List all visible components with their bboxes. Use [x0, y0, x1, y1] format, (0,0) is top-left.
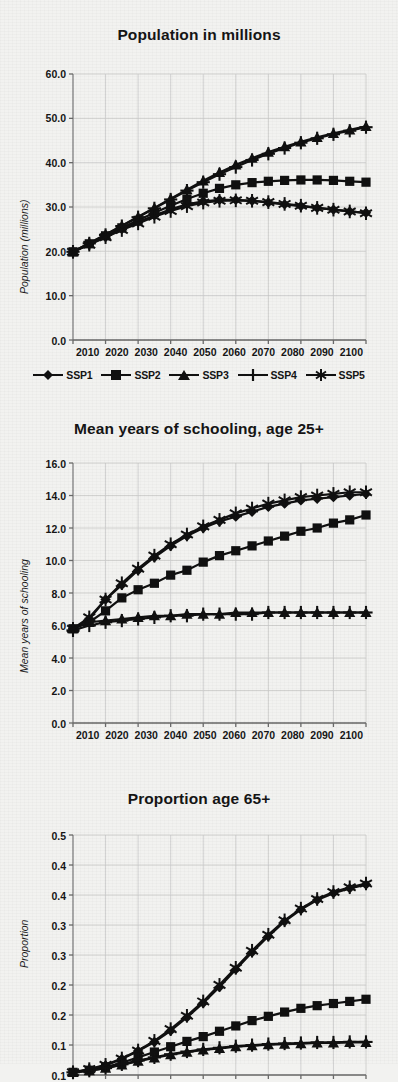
y-tick-proportion: 0.4 — [24, 890, 66, 902]
x-tick: 2040 — [161, 729, 190, 741]
y-tick-proportion: 0.3 — [24, 950, 66, 962]
x-tick: 2080 — [278, 346, 307, 358]
chart-panel-schooling: Mean years of schooling, age 25+ Mean ye… — [0, 420, 398, 728]
legend-label: SSP4 — [270, 369, 297, 381]
y-tick-population: 40.0 — [24, 157, 66, 169]
y-tick-population: 10.0 — [24, 290, 66, 302]
y-tick-schooling: 2.0 — [24, 685, 66, 697]
chart-title-population: Population in millions — [0, 26, 398, 44]
y-tick-schooling: 0.0 — [24, 718, 66, 730]
y-tick-population: 50.0 — [24, 112, 66, 124]
x-tick: 2100 — [337, 346, 366, 358]
x-tick: 2030 — [132, 729, 161, 741]
plot-area-population: Population (millions) 60.0 50.0 40.0 30.… — [0, 44, 398, 344]
y-tick-schooling: 6.0 — [24, 620, 66, 632]
asterisk-marker-icon — [306, 368, 336, 382]
x-tick: 2060 — [219, 346, 248, 358]
y-tick-population: 60.0 — [24, 68, 66, 80]
x-tick: 2030 — [132, 346, 161, 358]
legend-item-ssp4[interactable]: SSP4 — [238, 368, 297, 382]
legend-item-ssp5[interactable]: SSP5 — [306, 368, 365, 382]
y-tick-proportion: 0.1 — [24, 1040, 66, 1052]
chart-panel-population: Population in millions Population (milli… — [0, 26, 398, 344]
plot-area-proportion: Proportion 0.5 0.4 0.4 0.3 0.3 0.2 0.2 0… — [0, 808, 398, 1082]
y-tick-population: 30.0 — [24, 201, 66, 213]
y-tick-proportion: 0.1 — [24, 1070, 66, 1082]
x-tick: 2060 — [219, 729, 248, 741]
chart-panel-proportion: Proportion age 65+ Proportion 0.5 0.4 0.… — [0, 790, 398, 1082]
square-marker-icon — [101, 368, 131, 382]
plus-marker-icon — [238, 368, 268, 382]
x-tick: 2050 — [190, 346, 219, 358]
x-tick: 2010 — [73, 346, 102, 358]
x-tick: 2050 — [190, 729, 219, 741]
chart-title-proportion: Proportion age 65+ — [0, 790, 398, 808]
legend-item-ssp3[interactable]: SSP3 — [169, 368, 228, 382]
plot-area-schooling: Mean years of schooling 16.0 14.0 12.0 1… — [0, 438, 398, 728]
y-tick-schooling: 16.0 — [24, 458, 66, 470]
legend-item-ssp2[interactable]: SSP2 — [101, 368, 160, 382]
y-tick-schooling: 12.0 — [24, 523, 66, 535]
y-tick-proportion: 0.2 — [24, 1010, 66, 1022]
x-tick: 2020 — [102, 729, 131, 741]
x-tick: 2100 — [337, 729, 366, 741]
x-tick: 2090 — [307, 729, 336, 741]
legend: SSP1 SSP2 SSP3 SSP4 SSP5 — [0, 368, 398, 382]
diamond-marker-icon — [33, 368, 63, 382]
legend-label: SSP3 — [201, 369, 228, 381]
legend-item-ssp1[interactable]: SSP1 — [33, 368, 92, 382]
y-tick-proportion: 0.3 — [24, 920, 66, 932]
y-tick-population: 20.0 — [24, 246, 66, 258]
y-tick-population: 0.0 — [24, 335, 66, 347]
x-tick: 2080 — [278, 729, 307, 741]
x-tick: 2040 — [161, 346, 190, 358]
chart-title-schooling: Mean years of schooling, age 25+ — [0, 420, 398, 438]
x-tick: 2070 — [249, 729, 278, 741]
y-tick-proportion: 0.4 — [24, 860, 66, 872]
legend-label: SSP5 — [338, 369, 365, 381]
triangle-marker-icon — [169, 368, 199, 382]
y-tick-schooling: 14.0 — [24, 490, 66, 502]
y-tick-schooling: 10.0 — [24, 555, 66, 567]
y-tick-schooling: 8.0 — [24, 588, 66, 600]
y-tick-proportion: 0.5 — [24, 830, 66, 842]
x-tick: 2090 — [307, 346, 336, 358]
legend-label: SSP2 — [133, 369, 160, 381]
y-tick-proportion: 0.2 — [24, 980, 66, 992]
x-tick: 2020 — [102, 346, 131, 358]
x-tick: 2010 — [73, 729, 102, 741]
legend-label: SSP1 — [65, 369, 92, 381]
x-axis-ticks-schooling: 2010 2020 2030 2040 2050 2060 2070 2080 … — [73, 729, 366, 741]
y-tick-schooling: 4.0 — [24, 653, 66, 665]
x-tick: 2070 — [249, 346, 278, 358]
x-axis-ticks-population: 2010 2020 2030 2040 2050 2060 2070 2080 … — [73, 346, 366, 358]
